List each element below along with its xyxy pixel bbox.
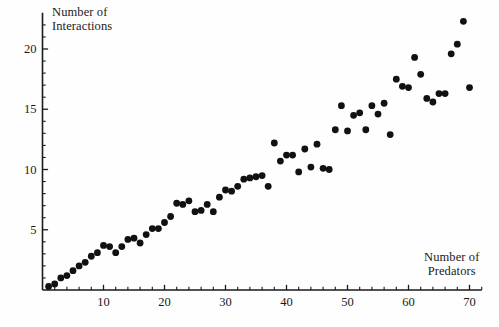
y-tick-label: 10 xyxy=(24,162,37,177)
data-point xyxy=(125,236,132,243)
data-point xyxy=(222,187,229,194)
data-point xyxy=(173,200,180,207)
data-point xyxy=(88,253,95,260)
data-point xyxy=(234,183,241,190)
data-point xyxy=(106,243,113,250)
data-point xyxy=(381,100,388,107)
scatter-plot-figure: Number of Interactions Number of Predato… xyxy=(0,0,499,327)
data-point xyxy=(70,267,77,274)
data-point xyxy=(149,225,156,232)
data-point xyxy=(277,158,284,165)
data-point xyxy=(356,109,363,116)
y-tick-label: 20 xyxy=(24,42,37,57)
data-point xyxy=(186,197,193,204)
data-point xyxy=(137,240,144,247)
data-point xyxy=(466,84,473,91)
data-point xyxy=(143,231,150,238)
data-point xyxy=(118,243,125,250)
data-point xyxy=(301,146,308,153)
y-tick-label: 5 xyxy=(30,222,36,237)
data-point xyxy=(76,263,83,270)
data-point xyxy=(131,235,138,242)
x-axis-title: Number of Predators xyxy=(424,250,479,278)
data-point xyxy=(423,95,430,102)
x-tick-label: 40 xyxy=(280,295,293,310)
data-point xyxy=(308,164,315,171)
data-point xyxy=(338,102,345,109)
data-point xyxy=(57,275,64,282)
data-point xyxy=(350,112,357,119)
data-point xyxy=(417,71,424,78)
x-tick-label: 30 xyxy=(219,295,232,310)
data-point xyxy=(265,183,272,190)
data-point xyxy=(253,173,260,180)
data-point xyxy=(436,90,443,97)
data-point xyxy=(430,99,437,106)
data-point xyxy=(100,242,107,249)
data-point xyxy=(198,207,205,214)
data-point xyxy=(82,259,89,266)
data-point xyxy=(161,219,168,226)
data-point xyxy=(460,18,467,25)
data-point xyxy=(112,249,119,256)
data-point xyxy=(283,152,290,159)
data-point xyxy=(192,208,199,215)
data-point xyxy=(375,111,382,118)
data-point xyxy=(387,131,394,138)
data-point xyxy=(393,76,400,83)
tick-marks-group xyxy=(43,25,482,290)
data-point xyxy=(204,201,211,208)
data-point xyxy=(64,272,71,279)
data-point xyxy=(289,152,296,159)
data-point xyxy=(405,84,412,91)
data-point xyxy=(399,83,406,90)
data-point xyxy=(228,188,235,195)
data-point xyxy=(94,249,101,256)
data-point xyxy=(314,141,321,148)
data-point xyxy=(362,126,369,133)
data-points-group xyxy=(45,18,473,290)
data-point xyxy=(411,54,418,61)
x-tick-label: 20 xyxy=(158,295,171,310)
data-point xyxy=(45,283,52,290)
data-point xyxy=(332,126,339,133)
data-point xyxy=(442,90,449,97)
data-point xyxy=(344,128,351,135)
data-point xyxy=(51,281,58,288)
y-tick-label: 15 xyxy=(24,102,37,117)
data-point xyxy=(448,50,455,57)
data-point xyxy=(326,166,333,173)
data-point xyxy=(271,140,278,147)
data-point xyxy=(240,176,247,183)
data-point xyxy=(216,194,223,201)
x-tick-label: 50 xyxy=(341,295,354,310)
x-tick-label: 70 xyxy=(463,295,476,310)
data-point xyxy=(179,201,186,208)
data-point xyxy=(210,208,217,215)
x-tick-label: 60 xyxy=(402,295,415,310)
data-point xyxy=(295,169,302,176)
data-point xyxy=(259,172,266,179)
data-point xyxy=(247,175,254,182)
data-point xyxy=(320,165,327,172)
data-point xyxy=(369,102,376,109)
y-axis-title: Number of Interactions xyxy=(52,5,112,33)
x-tick-label: 10 xyxy=(97,295,110,310)
data-point xyxy=(454,41,461,48)
data-point xyxy=(167,213,174,220)
data-point xyxy=(155,225,162,232)
